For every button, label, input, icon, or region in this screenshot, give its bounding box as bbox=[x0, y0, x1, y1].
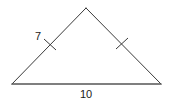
triangle-diagram: 7 10 bbox=[0, 0, 177, 104]
base-length-label: 10 bbox=[80, 88, 92, 100]
left-side-length-label: 7 bbox=[35, 30, 41, 42]
right-side bbox=[86, 8, 161, 84]
left-side bbox=[12, 8, 86, 84]
